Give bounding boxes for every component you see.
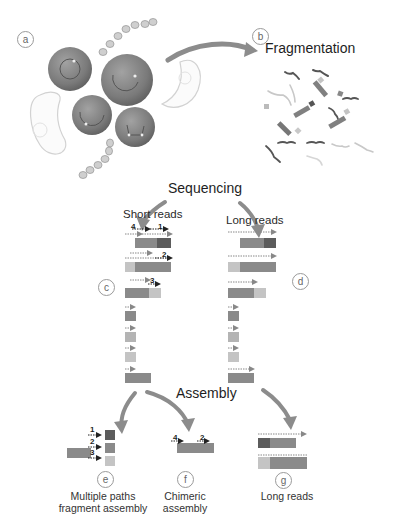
chimeric-assembly [171, 441, 214, 453]
path-number: 3 [90, 448, 94, 457]
fragmentation-title: Fragmentation [265, 40, 355, 56]
path-number: 1 [90, 425, 94, 434]
chimeric-number: 2 [200, 433, 204, 442]
assembly-arrow-g [263, 390, 290, 420]
caption-f-line2: assembly [155, 502, 215, 514]
diagram-canvas: a b Fragmentation Sequencing Short reads… [0, 0, 399, 524]
diagram-svg [0, 0, 399, 524]
short-reads-title: Short reads [123, 208, 182, 220]
long-reads-assembly [258, 434, 307, 469]
short-read-number: 1 [158, 222, 162, 231]
caption-e: Multiple paths fragment assembly [48, 490, 158, 514]
caption-f-line1: Chimeric [155, 490, 215, 502]
assembly-title: Assembly [176, 385, 237, 401]
marker-f: f [177, 471, 194, 488]
microbial-community [31, 19, 201, 179]
caption-f: Chimeric assembly [155, 490, 215, 514]
short-read-number: 3 [150, 276, 154, 285]
long-reads-panel [228, 232, 276, 383]
sequencing-title: Sequencing [168, 180, 242, 196]
marker-e: e [97, 471, 114, 488]
path-number: 2 [90, 437, 94, 446]
long-reads-title: Long reads [226, 214, 284, 226]
marker-d: d [292, 273, 309, 290]
marker-a: a [17, 31, 34, 48]
caption-e-line2: fragment assembly [48, 502, 158, 514]
caption-g: Long reads [255, 490, 319, 502]
chimeric-number: 4 [173, 433, 177, 442]
caption-e-line1: Multiple paths [48, 490, 158, 502]
fragmentation-arrow [168, 44, 252, 60]
dna-fragments [264, 70, 373, 165]
short-read-number: 4 [131, 222, 135, 231]
marker-c: c [98, 279, 115, 296]
short-read-number: 2 [162, 250, 166, 259]
marker-g: g [275, 472, 292, 489]
